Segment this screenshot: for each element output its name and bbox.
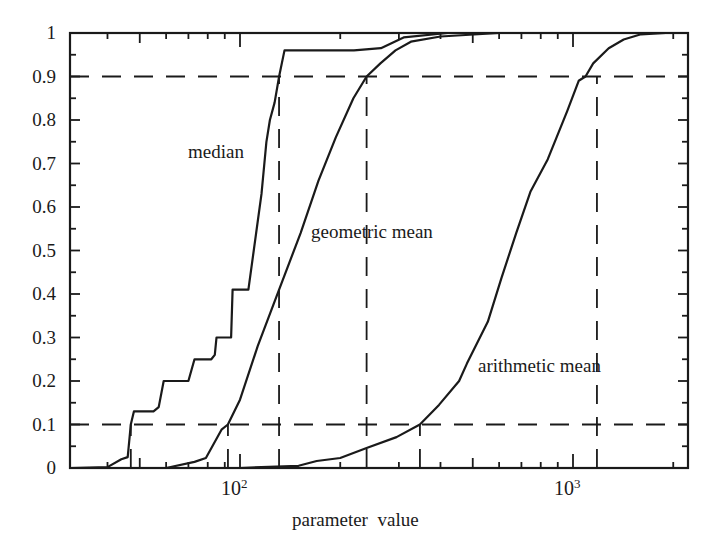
x-tick-label-100: 102 [221, 478, 248, 498]
y-tick-label: 0.3 [6, 328, 56, 348]
y-tick-label: 1 [6, 23, 56, 43]
geometric-mean-label: geometric mean [311, 222, 433, 242]
x-tick-base: 10 [554, 477, 574, 499]
y-tick-label: 0.8 [6, 110, 56, 130]
x-tick-exp: 2 [241, 476, 248, 491]
x-tick-exp: 3 [574, 476, 581, 491]
plot-frame [70, 33, 688, 468]
reference-lines [70, 77, 688, 469]
arithmetic-mean-curve [240, 33, 666, 468]
median-label: median [188, 142, 244, 162]
y-tick-label: 0 [6, 458, 56, 478]
y-tick-label: 0.2 [6, 371, 56, 391]
x-axis-title: parameter value [292, 510, 419, 530]
median-curve [71, 33, 448, 468]
y-tick-label: 0.4 [6, 284, 56, 304]
plot-border [70, 33, 688, 468]
series-lines [71, 33, 666, 468]
cdf-chart [0, 0, 711, 555]
geometric-mean-curve [166, 33, 499, 468]
y-tick-label: 0.9 [6, 67, 56, 87]
x-tick-label-1000: 103 [554, 478, 581, 498]
y-tick-label: 0.6 [6, 197, 56, 217]
x-tick-base: 10 [221, 477, 241, 499]
y-tick-label: 0.7 [6, 154, 56, 174]
arithmetic-mean-label: arithmetic mean [478, 356, 601, 376]
y-tick-label: 0.1 [6, 415, 56, 435]
y-tick-label: 0.5 [6, 241, 56, 261]
